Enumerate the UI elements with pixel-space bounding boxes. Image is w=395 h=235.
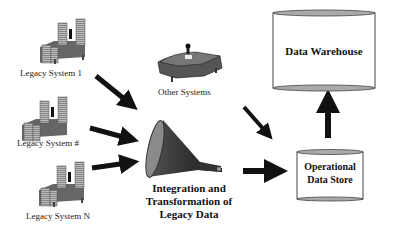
funnel-icon: [142, 119, 222, 179]
server-rack-icon: [22, 97, 67, 141]
integration-label: Integration and Transformation of Legacy…: [133, 182, 245, 221]
legacy-system-1-label: Legacy System 1: [20, 68, 82, 78]
server-rack-icon: [39, 162, 84, 207]
arrow-legacyhash-to-funnel: [90, 128, 127, 138]
data-warehouse-label: Data Warehouse: [273, 45, 375, 57]
ods-label-line2: Data Store: [297, 173, 363, 186]
ods-label-line1: Operational: [297, 160, 363, 173]
integration-label-line3: Legacy Data: [133, 208, 245, 221]
desk-workstation-icon: [158, 44, 222, 83]
legacy-system-hash-label: Legacy System #: [17, 138, 79, 148]
integration-label-line2: Transformation of: [133, 195, 245, 208]
server-rack-icon: [40, 19, 85, 64]
integration-label-line1: Integration and: [133, 182, 245, 195]
ods-label: Operational Data Store: [297, 160, 363, 186]
legacy-system-n-label: Legacy System N: [26, 211, 90, 221]
other-systems-label: Other Systems: [158, 87, 211, 97]
arrow-legacy1-to-funnel: [96, 76, 128, 102]
arrow-other-to-ods: [244, 107, 266, 132]
arrow-legacyn-to-funnel: [92, 163, 127, 168]
